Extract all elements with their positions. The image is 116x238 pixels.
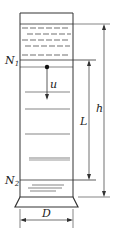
D-arrow-right-icon — [67, 218, 73, 222]
arrowheads — [20, 24, 106, 222]
h-label: h — [96, 102, 103, 115]
L-arrow-down-icon — [87, 174, 91, 180]
n1-label: N1 — [4, 54, 19, 68]
bottom-liquid-lines — [28, 185, 64, 191]
h-arrow-up-icon — [102, 24, 106, 30]
n2-label: N2 — [4, 174, 20, 188]
L-arrow-up-icon — [87, 60, 91, 66]
u-label: u — [50, 78, 57, 91]
D-label: D — [41, 207, 51, 220]
D-arrow-left-icon — [20, 218, 26, 222]
h-arrow-down-icon — [102, 191, 106, 197]
L-label: L — [79, 115, 87, 128]
tube-base — [15, 197, 78, 207]
u-arrow-head-icon — [45, 94, 49, 100]
viscometer-diagram: N1 N2 u L h D — [0, 0, 116, 238]
falling-ball — [45, 65, 49, 69]
liquid-dashes — [22, 28, 71, 55]
